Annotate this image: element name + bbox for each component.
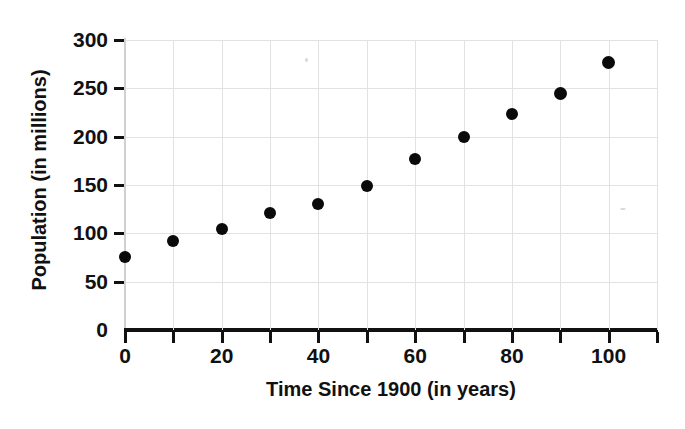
data-point — [409, 153, 421, 165]
gridline-horizontal — [125, 233, 657, 234]
gridline-vertical — [464, 40, 465, 330]
x-axis-tick — [559, 332, 562, 343]
x-axis-title: Time Since 1900 (in years) — [125, 378, 657, 401]
gridline-horizontal — [125, 137, 657, 138]
y-axis-tick-label: 0 — [44, 319, 108, 340]
x-axis-tick-label: 100 — [574, 345, 644, 366]
data-point — [264, 207, 276, 219]
y-axis-tick-label: 50 — [44, 271, 108, 292]
gridline-horizontal — [125, 40, 657, 41]
data-point — [216, 223, 228, 235]
x-axis-tick-label: 80 — [477, 345, 547, 366]
gridline-vertical — [512, 40, 513, 330]
y-axis-tick-label: 100 — [44, 222, 108, 243]
plot-area — [125, 40, 657, 330]
x-axis-tick — [317, 332, 320, 343]
y-axis-tick-label: 250 — [44, 77, 108, 98]
x-axis-tick — [511, 332, 514, 343]
gridline-vertical — [222, 40, 223, 330]
scan-speckle — [305, 58, 308, 62]
gridline-vertical — [318, 40, 319, 330]
y-axis-tick-label: 200 — [44, 126, 108, 147]
data-point — [506, 108, 518, 120]
x-axis-tick — [463, 332, 466, 343]
gridline-vertical — [270, 40, 271, 330]
gridline-vertical — [560, 40, 561, 330]
x-axis-tick — [414, 332, 417, 343]
gridline-vertical — [173, 40, 174, 330]
x-axis-tick — [608, 332, 611, 343]
gridline-vertical — [609, 40, 610, 330]
data-point — [554, 87, 567, 100]
y-axis-tick — [114, 184, 124, 187]
data-point — [361, 180, 373, 192]
x-axis-tick — [124, 332, 127, 343]
data-point — [167, 235, 179, 247]
gridline-vertical — [657, 40, 658, 330]
x-axis-tick — [269, 332, 272, 343]
y-axis-tick — [114, 232, 124, 235]
y-axis-tick-label: 150 — [44, 174, 108, 195]
gridline-horizontal — [125, 88, 657, 89]
gridline-vertical — [415, 40, 416, 330]
x-axis-tick — [172, 332, 175, 343]
data-point — [312, 198, 324, 210]
x-axis-tick — [221, 332, 224, 343]
x-axis-tick-label: 0 — [90, 345, 160, 366]
gridline-horizontal — [125, 282, 657, 283]
gridline-horizontal — [125, 185, 657, 186]
y-axis-tick — [114, 87, 124, 90]
x-axis-tick-label: 60 — [380, 345, 450, 366]
x-axis-tick-label: 20 — [187, 345, 257, 366]
y-axis-tick — [114, 136, 124, 139]
y-axis-tick-label: 300 — [44, 29, 108, 50]
data-point — [458, 131, 470, 143]
data-point — [602, 56, 615, 69]
y-axis-tick — [114, 281, 124, 284]
x-axis-tick — [366, 332, 369, 343]
scatter-plot-figure: Population (in millions) 050100150200250… — [0, 0, 685, 429]
data-point — [119, 251, 131, 263]
x-axis-tick — [656, 332, 659, 343]
scan-speckle — [620, 208, 626, 210]
y-axis-tick — [114, 39, 124, 42]
x-axis-tick-label: 40 — [283, 345, 353, 366]
